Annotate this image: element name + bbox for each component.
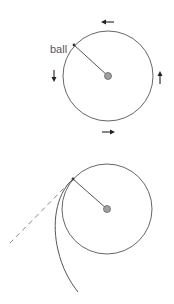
arrow-down-icon <box>52 70 57 82</box>
arrow-left-icon <box>101 20 114 25</box>
string-line <box>74 45 108 76</box>
circular-motion-diagram: ball <box>0 0 174 304</box>
string-line-released <box>73 179 107 209</box>
trajectory-curve <box>55 179 78 292</box>
center-pivot-released <box>104 206 111 213</box>
top-diagram: ball <box>50 20 163 135</box>
ball-dot <box>73 44 76 47</box>
arrow-up-icon <box>158 71 163 84</box>
bottom-diagram <box>10 164 152 292</box>
ball-label: ball <box>50 43 67 55</box>
center-pivot <box>105 73 112 80</box>
tangent-dashed-line <box>10 182 70 243</box>
arrow-right-icon <box>102 130 115 135</box>
